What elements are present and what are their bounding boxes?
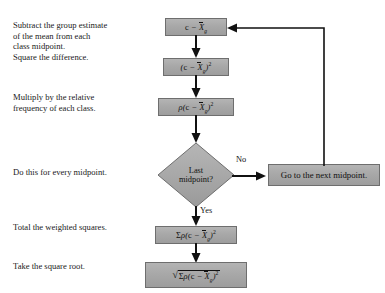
formula-square: (c − Xg)2 (181, 63, 212, 72)
formula-square-root: √Σρ(c − Xg)2 (172, 270, 219, 281)
node-go-to-next-midpoint: Go to the next midpoint. (268, 164, 380, 186)
node-square-root: √Σρ(c − Xg)2 (145, 262, 247, 288)
decision-line-2: midpoint? (179, 175, 213, 184)
formula-multiply: ρ(c − Xg)2 (179, 103, 214, 112)
formula-subtract: c − Xg (185, 23, 207, 32)
formula-total: Σρ(c − Xg)2 (176, 231, 216, 240)
connector-subtract-to-square (190, 35, 202, 60)
step-label-multiply: Multiply by the relative frequency of ea… (13, 92, 163, 113)
node-total: Σρ(c − Xg)2 (155, 226, 237, 244)
flowchart-canvas: Subtract the group estimate of the mean … (0, 0, 385, 293)
step-label-subtract: Subtract the group estimate of the mean … (13, 20, 163, 52)
connector-loop-back (220, 19, 332, 167)
connector-decision-no (232, 168, 268, 184)
step-label-total: Total the weighted squares. (13, 222, 168, 233)
node-subtract: c − Xg (165, 18, 227, 36)
decision-line-1: Last (189, 166, 203, 175)
step-label-square: Square the difference. (13, 52, 163, 63)
connector-multiply-to-decision (190, 115, 202, 145)
step-label-decision: Do this for every midpoint. (13, 167, 168, 178)
connector-square-to-multiply (190, 75, 202, 100)
edge-label-yes: Yes (200, 206, 212, 215)
